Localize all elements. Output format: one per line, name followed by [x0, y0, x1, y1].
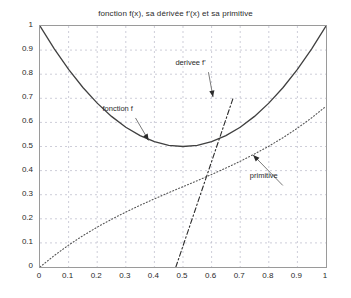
- annotation-label-0: fonction f: [103, 104, 133, 113]
- annotation-label-1: derivee f': [175, 58, 205, 67]
- x-tick-4: 0.4: [138, 271, 168, 280]
- x-tick-2: 0.2: [81, 271, 111, 280]
- chart-title: fonction f(x), sa dérivée f'(x) et sa pr…: [0, 9, 351, 18]
- x-tick-10: 1: [310, 271, 340, 280]
- y-tick-5: 0.5: [3, 141, 33, 150]
- y-tick-6: 0.6: [3, 116, 33, 125]
- x-tick-1: 0.1: [53, 271, 83, 280]
- x-tick-0: 0: [24, 271, 54, 280]
- y-tick-2: 0.2: [3, 213, 33, 222]
- y-tick-10: 1: [3, 20, 33, 29]
- x-tick-8: 0.8: [253, 271, 283, 280]
- x-tick-7: 0.7: [224, 271, 254, 280]
- y-tick-9: 0.9: [3, 44, 33, 53]
- annotation-label-2: primitive: [250, 171, 278, 180]
- series-derivee-f-: [176, 98, 233, 267]
- x-tick-5: 0.5: [167, 271, 197, 280]
- y-tick-7: 0.7: [3, 92, 33, 101]
- y-tick-0: 0: [3, 261, 33, 270]
- x-tick-3: 0.3: [110, 271, 140, 280]
- y-tick-8: 0.8: [3, 68, 33, 77]
- x-tick-9: 0.9: [281, 271, 311, 280]
- y-tick-3: 0.3: [3, 189, 33, 198]
- figure-chart: fonction f(x), sa dérivée f'(x) et sa pr…: [0, 0, 351, 298]
- y-tick-1: 0.1: [3, 237, 33, 246]
- x-tick-6: 0.6: [196, 271, 226, 280]
- y-tick-4: 0.4: [3, 165, 33, 174]
